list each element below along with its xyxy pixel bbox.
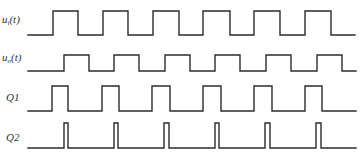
label-main: Q2: [6, 131, 19, 143]
signal-label-ui: ui(t): [2, 14, 20, 27]
waveform-uo: [28, 55, 356, 71]
label-tail: (t): [11, 51, 21, 63]
waveform-q1: [28, 86, 356, 111]
label-main: Q1: [6, 91, 19, 103]
signal-label-q2: Q2: [6, 132, 19, 143]
signal-label-uo: uo(t): [2, 52, 21, 65]
timing-diagram: ui(t) uo(t) Q1 Q2: [0, 0, 360, 159]
waveform-ui: [28, 11, 355, 35]
waveform-canvas: [0, 0, 360, 159]
signal-label-q1: Q1: [6, 92, 19, 103]
label-tail: (t): [9, 13, 19, 25]
waveform-q2: [28, 123, 356, 148]
